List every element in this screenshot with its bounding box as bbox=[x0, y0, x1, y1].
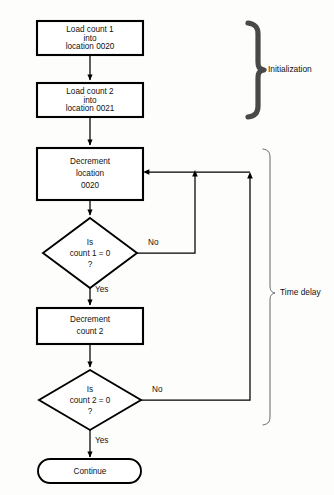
time-delay-brace-icon bbox=[263, 149, 275, 425]
node-decrement-count-2-line-1: count 2 bbox=[77, 327, 104, 336]
edge-label-decision1-yes: Yes bbox=[95, 285, 108, 294]
node-load-count-2-line-2: location 0021 bbox=[66, 104, 115, 113]
edge-label-decision1-no: No bbox=[148, 238, 159, 247]
node-load-count-1-line-2: location 0020 bbox=[66, 42, 115, 51]
node-is-count-2-zero-line-0: Is bbox=[87, 385, 93, 394]
annotation-time-delay: Time delay bbox=[263, 149, 321, 425]
node-is-count-1-zero-line-1: count 1 = 0 bbox=[70, 249, 111, 258]
node-continue-label: Continue bbox=[74, 467, 107, 476]
node-continue: Continue bbox=[38, 459, 141, 483]
node-decrement-count-2: Decrement count 2 bbox=[37, 308, 143, 344]
edge-label-decision2-no: No bbox=[152, 385, 163, 394]
node-load-count-2: Load count 2 into location 0021 bbox=[37, 83, 143, 117]
initialization-brace-icon bbox=[248, 23, 264, 117]
node-is-count-1-zero-line-0: Is bbox=[87, 238, 93, 247]
edge-label-decision2-yes: Yes bbox=[95, 436, 108, 445]
node-load-count-1: Load count 1 into location 0020 bbox=[37, 21, 143, 55]
feedback-loop-outer-decision2-no bbox=[141, 172, 253, 400]
node-decrement-location-0020-line-2: 0020 bbox=[81, 181, 100, 190]
annotation-time-delay-label: Time delay bbox=[280, 287, 321, 297]
flowchart-page: Load count 1 into location 0020 Load cou… bbox=[0, 0, 334, 495]
node-is-count-1-zero: Is count 1 = 0 ? bbox=[43, 218, 137, 288]
flowchart-canvas: Load count 1 into location 0020 Load cou… bbox=[0, 0, 334, 495]
annotation-initialization: Initialization bbox=[248, 23, 312, 117]
annotation-initialization-label: Initialization bbox=[268, 64, 312, 74]
node-is-count-2-zero-line-1: count 2 = 0 bbox=[70, 396, 111, 405]
node-decrement-location-0020-line-0: Decrement bbox=[70, 157, 111, 166]
node-decrement-count-2-line-0: Decrement bbox=[70, 315, 111, 324]
node-is-count-1-zero-line-2: ? bbox=[88, 260, 93, 269]
node-is-count-2-zero: Is count 2 = 0 ? bbox=[39, 370, 141, 430]
node-decrement-location-0020: Decrement location 0020 bbox=[37, 148, 143, 200]
feedback-loop-inner-decision1-no bbox=[137, 169, 198, 253]
node-is-count-2-zero-line-2: ? bbox=[88, 407, 93, 416]
node-decrement-location-0020-line-1: location bbox=[76, 169, 105, 178]
